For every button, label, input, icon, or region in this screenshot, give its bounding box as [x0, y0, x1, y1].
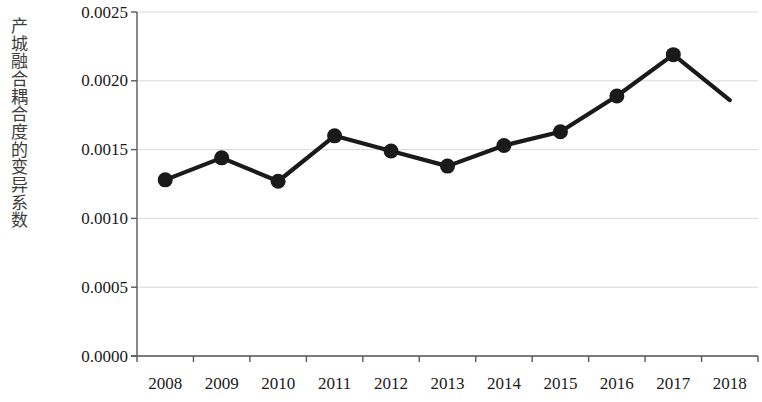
data-point-marker — [553, 124, 568, 139]
data-point-marker — [158, 172, 173, 187]
data-point-marker — [496, 138, 511, 153]
x-tick-label: 2013 — [420, 374, 476, 394]
x-tick-label: 2011 — [307, 374, 363, 394]
data-markers — [158, 47, 681, 189]
data-point-marker — [609, 88, 624, 103]
x-tick-label: 2016 — [589, 374, 645, 394]
x-tick-label: 2014 — [476, 374, 532, 394]
data-point-marker — [327, 128, 342, 143]
x-tick-label: 2017 — [645, 374, 701, 394]
plot-area — [0, 0, 762, 402]
data-point-marker — [214, 150, 229, 165]
x-tick-label: 2010 — [250, 374, 306, 394]
data-point-marker — [271, 174, 286, 189]
data-point-marker — [440, 159, 455, 174]
x-tick-label: 2015 — [532, 374, 588, 394]
x-tick-label: 2008 — [137, 374, 193, 394]
data-point-marker — [384, 143, 399, 158]
y-axis-ticks — [131, 12, 137, 356]
x-axis-ticks — [137, 356, 758, 362]
x-tick-label: 2012 — [363, 374, 419, 394]
x-tick-label: 2018 — [702, 374, 758, 394]
x-tick-label: 2009 — [194, 374, 250, 394]
data-point-marker — [666, 47, 681, 62]
chart-container: 产城融合耦合度的变异系数 0.0025 0.0020 0.0015 0.0010… — [0, 0, 762, 402]
gridlines — [137, 12, 758, 356]
